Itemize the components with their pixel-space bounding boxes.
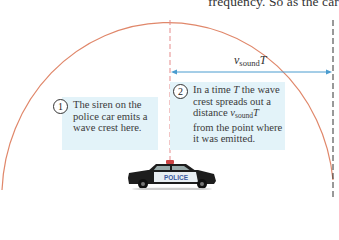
distance-label: vsoundT xyxy=(234,53,266,68)
callout-emission: 1 The siren on the police car emits a wa… xyxy=(62,97,158,150)
police-car-icon: POLICE xyxy=(126,160,218,190)
arrowhead-left-icon xyxy=(171,70,177,75)
svg-text:POLICE: POLICE xyxy=(164,174,189,181)
callout-emission-text: The siren on the police car emits a wave… xyxy=(73,99,147,134)
step-number-2: 2 xyxy=(173,84,188,99)
arrowhead-right-icon xyxy=(326,70,332,75)
step-number-1: 1 xyxy=(53,99,68,114)
callout-spread-text: In a time T the wave crest spreads out a… xyxy=(193,84,282,145)
callout-spread: 2 In a time T the wave crest spreads out… xyxy=(170,82,285,150)
